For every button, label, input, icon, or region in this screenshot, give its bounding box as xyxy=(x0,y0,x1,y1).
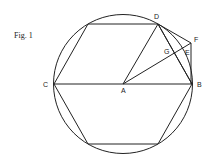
label-C: C xyxy=(43,81,48,88)
figure-caption: Fig. 1 xyxy=(14,31,33,40)
label-F: F xyxy=(194,36,198,43)
radius-AD xyxy=(123,24,158,84)
label-A: A xyxy=(121,87,126,94)
label-E: E xyxy=(185,49,190,56)
label-G: G xyxy=(164,48,169,55)
geometry-figure: Fig. 1 A B C D E F G xyxy=(0,0,215,166)
label-B: B xyxy=(197,81,202,88)
label-D: D xyxy=(154,13,159,20)
